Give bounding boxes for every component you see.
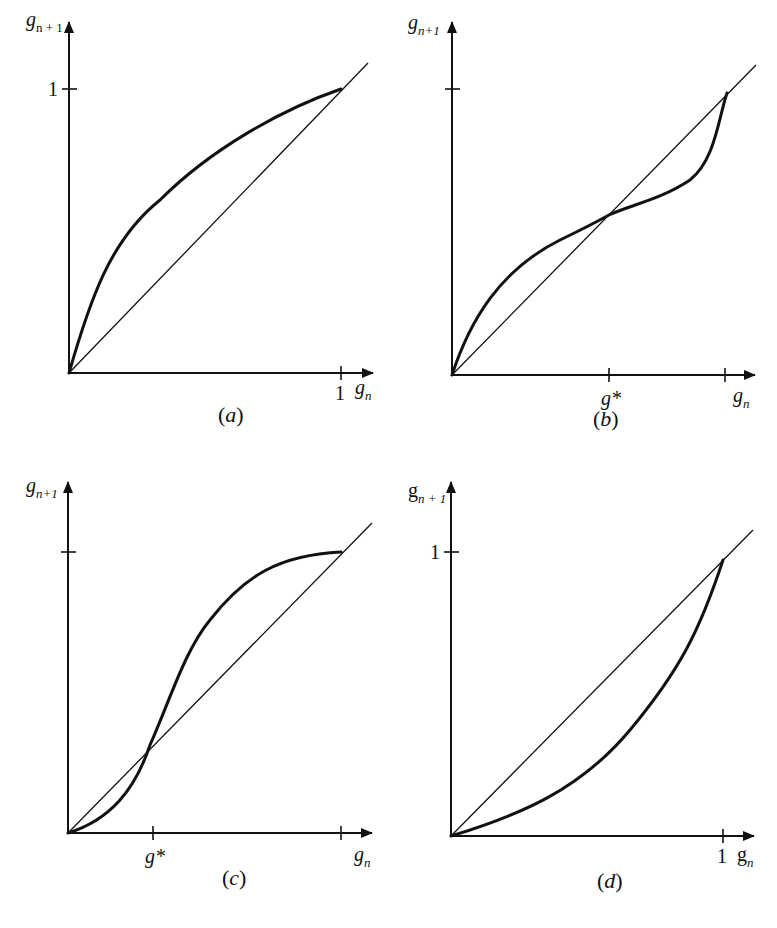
y-tick-label: 1 bbox=[430, 541, 440, 563]
x-tick-label: 1 bbox=[717, 845, 727, 867]
x-tick-label: 1 bbox=[335, 382, 345, 404]
panel-caption: (a) bbox=[218, 402, 244, 427]
panel-caption: (c) bbox=[222, 865, 246, 890]
x-tick-gstar-label: g* bbox=[145, 845, 165, 868]
panel-caption: (d) bbox=[597, 868, 623, 893]
y-tick-label: 1 bbox=[48, 78, 58, 100]
diagonal-line bbox=[452, 65, 756, 375]
panel-b: gn+1 g* gn (b) bbox=[408, 11, 756, 431]
panel-caption: (b) bbox=[593, 406, 619, 431]
panel-d: gn + 1 1 1 gn (d) bbox=[408, 479, 754, 893]
diagonal-line bbox=[69, 63, 368, 373]
y-axis-label: gn + 1 bbox=[408, 479, 446, 506]
y-axis-label: gn+1 bbox=[26, 474, 58, 501]
panel-c: gn+1 g* gn (c) bbox=[26, 474, 372, 890]
x-axis-label: gn bbox=[354, 843, 371, 870]
x-axis-label: gn bbox=[737, 843, 754, 870]
diagonal-line bbox=[451, 530, 753, 836]
panel-a: gn + 1 1 1 gn (a) bbox=[26, 8, 373, 427]
y-axis-label: gn+1 bbox=[408, 11, 440, 38]
x-axis-label: gn bbox=[733, 384, 750, 411]
diagonal-line bbox=[68, 523, 372, 833]
figure-canvas: gn + 1 1 1 gn (a) gn+1 g* gn (b) gn+1 g*… bbox=[0, 0, 777, 928]
x-axis-label: gn bbox=[355, 376, 372, 403]
y-axis-label: gn + 1 bbox=[26, 8, 63, 35]
